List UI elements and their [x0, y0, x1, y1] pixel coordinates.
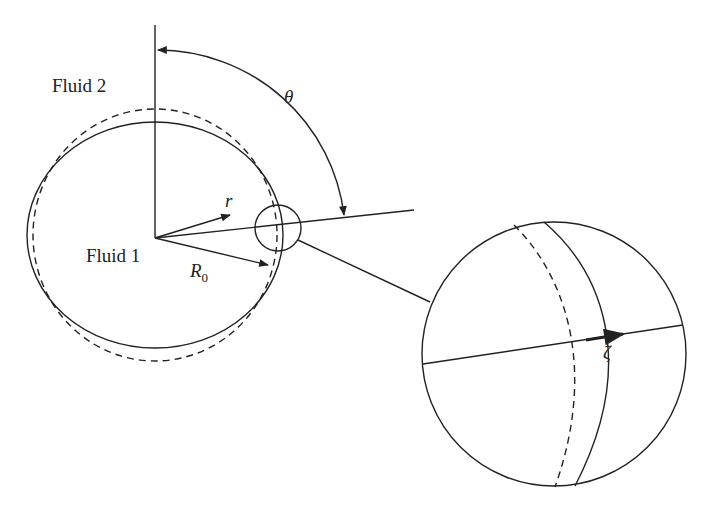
- label-zeta: ζ: [603, 342, 611, 364]
- label-fluid-2: Fluid 2: [52, 75, 106, 97]
- theta-ray: [155, 210, 414, 238]
- label-theta: θ: [284, 86, 293, 108]
- magnifier-connector: [298, 240, 430, 302]
- theta-arc: [158, 50, 344, 215]
- label-r0: R0: [190, 260, 208, 282]
- magnifier-circle: [255, 205, 301, 251]
- label-r0-main: R: [190, 260, 202, 281]
- label-r0-subscript: 0: [202, 270, 209, 285]
- magnified-ray: [423, 325, 683, 364]
- label-r: r: [225, 190, 232, 212]
- label-fluid-1: Fluid 1: [86, 245, 140, 267]
- magnified-unperturbed-interface: [514, 225, 575, 487]
- zeta-arrow: [586, 334, 623, 340]
- magnified-view: [422, 222, 686, 486]
- magnified-perturbed-interface: [544, 222, 609, 486]
- r0-arrow: [155, 238, 268, 265]
